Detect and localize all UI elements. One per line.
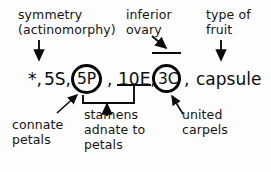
annotation-symmetry-line1: symmetry <box>18 7 82 22</box>
formula-fruit: capsule <box>196 66 261 92</box>
floral-formula: *, 5S, 5P , 10E, 3C , capsule <box>0 66 271 92</box>
arrow-connate-petals <box>57 95 77 113</box>
annotation-stamens-adnate-line1: stamens <box>84 107 138 122</box>
formula-symmetry-symbol: *, <box>28 66 42 92</box>
annotation-united-carpels: united carpels <box>182 107 244 137</box>
annotation-connate-petals-line2: petals <box>12 132 78 147</box>
formula-comma-after-petals: , <box>107 66 112 92</box>
circle-around-carpels-icon <box>152 64 181 93</box>
formula-comma-after-carpels: , <box>184 66 189 92</box>
formula-sepals: 5S, <box>44 66 71 92</box>
annotation-stamens-adnate-line3: petals <box>84 137 150 152</box>
annotation-united-carpels-line1: united <box>182 107 222 122</box>
annotation-type-of-fruit: type of fruit <box>206 7 271 37</box>
annotation-inferior-ovary: inferior ovary <box>126 7 196 37</box>
annotation-type-of-fruit-line2: fruit <box>206 22 271 37</box>
annotation-connate-petals: connate petals <box>12 117 78 147</box>
annotation-stamens-adnate-line2: adnate to <box>84 122 150 137</box>
annotation-united-carpels-line2: carpels <box>182 122 244 137</box>
annotation-symmetry-line2: (actinomorphy) <box>18 22 138 37</box>
arrow-inferior-ovary <box>152 36 166 48</box>
inferior-ovary-bar-icon <box>152 52 181 54</box>
annotation-inferior-ovary-line1: inferior <box>126 7 172 22</box>
underline-stamens-icon <box>117 84 151 86</box>
annotation-connate-petals-line1: connate <box>12 117 63 132</box>
annotation-type-of-fruit-line1: type of <box>206 7 251 22</box>
annotation-inferior-ovary-line2: ovary <box>126 22 196 37</box>
floral-formula-diagram: symmetry (actinomorphy) inferior ovary t… <box>0 0 271 172</box>
annotation-stamens-adnate: stamens adnate to petals <box>84 107 150 152</box>
annotation-symmetry: symmetry (actinomorphy) <box>18 7 138 37</box>
formula-stamens: 10E, <box>118 66 156 92</box>
circle-around-petals-icon <box>71 64 102 94</box>
